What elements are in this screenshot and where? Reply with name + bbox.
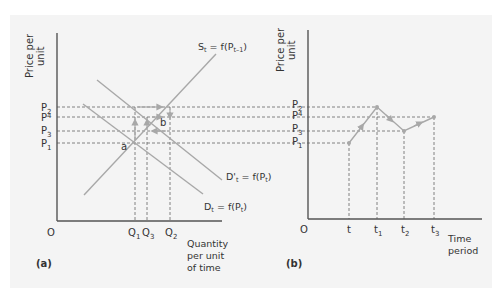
demand-label: Dt = f(Pt) xyxy=(204,201,247,214)
price-path-arrows xyxy=(358,115,420,132)
axes-b xyxy=(308,30,482,219)
y-axis-label-b: Price per unit xyxy=(275,25,297,72)
x-axis-label-b: Time period xyxy=(447,233,478,256)
demand-shifted-label: D't = f(Pt) xyxy=(226,171,272,184)
caption-a: (a) xyxy=(36,258,52,269)
svg-text:t2: t2 xyxy=(401,224,409,238)
point-b-label: b xyxy=(160,117,166,128)
demand-shifted-curve xyxy=(97,80,222,180)
time-labels: t t1 t2 t3 xyxy=(347,224,439,238)
origin-b: O xyxy=(300,224,308,235)
price-labels-b: P2 P4 P3 P1 xyxy=(292,99,303,150)
svg-text:t3: t3 xyxy=(431,224,439,238)
svg-text:P1: P1 xyxy=(41,138,52,152)
svg-text:P4: P4 xyxy=(41,112,52,123)
panel-b: Price per unit P2 P4 P3 P1 O t t1 t2 t3 … xyxy=(275,25,482,269)
svg-text:P4: P4 xyxy=(292,110,303,121)
y-axis-label: Price per unit xyxy=(24,31,46,78)
price-labels-a: P2 P4 P3 P1 xyxy=(41,102,52,152)
origin-a: O xyxy=(47,227,55,238)
svg-text:Q2: Q2 xyxy=(165,227,177,241)
curves xyxy=(83,54,222,195)
x-axis-label: Quantity per unit of time xyxy=(187,238,231,273)
panel-a: Price per unit P2 P4 P3 P1 O Q1 Q3 Q2 Qu… xyxy=(24,31,434,273)
cobweb-figure: Price per unit P2 P4 P3 P1 O Q1 Q3 Q2 Qu… xyxy=(0,0,502,297)
svg-text:Q1: Q1 xyxy=(128,227,140,241)
time-guides xyxy=(349,107,434,219)
svg-text:P3: P3 xyxy=(292,123,303,137)
supply-label: St = f(Pt–1) xyxy=(198,41,247,54)
svg-text:t1: t1 xyxy=(374,224,382,238)
point-a-label: a xyxy=(121,141,127,152)
caption-b: (b) xyxy=(286,258,302,269)
svg-text:Q3: Q3 xyxy=(142,227,154,241)
price-path-points xyxy=(347,105,436,145)
supply-curve xyxy=(84,54,216,195)
svg-text:P3: P3 xyxy=(41,125,52,139)
quantity-labels: Q1 Q3 Q2 xyxy=(128,227,177,241)
axes-a xyxy=(57,33,222,221)
price-path xyxy=(349,107,434,143)
svg-text:P1: P1 xyxy=(292,136,303,150)
svg-text:t: t xyxy=(347,224,351,235)
